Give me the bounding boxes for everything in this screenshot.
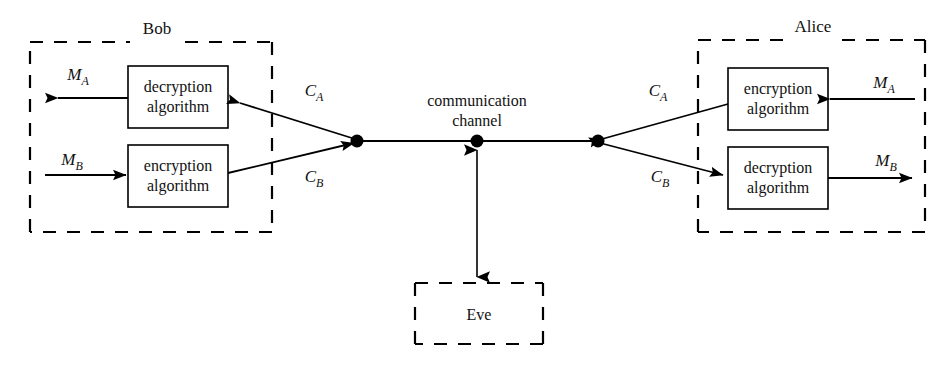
alice-group: Alice encryption algorithm decryption al…: [698, 17, 925, 232]
bob-cipher-in-label: CA: [305, 81, 324, 104]
channel-label-line2: channel: [452, 112, 502, 129]
alice-plaintext-in-sub: A: [886, 82, 895, 96]
alice-cipher-in-label: CB: [651, 167, 670, 190]
alice-plaintext-in-base: M: [872, 73, 888, 92]
alice-encryption-box: [728, 68, 828, 130]
channel-node-left: [351, 135, 364, 148]
bob-decryption-box-line1: decryption: [144, 78, 212, 96]
alice-plaintext-out-label: MB: [874, 151, 897, 174]
communication-channel-group: communication channel: [351, 92, 605, 148]
eve-label: Eve: [467, 306, 492, 323]
bob-label: Bob: [143, 19, 171, 38]
bob-cipher-in-base: C: [305, 81, 317, 100]
bob-channel-links: CA CB: [228, 81, 355, 190]
alice-plaintext-out-base: M: [874, 151, 890, 170]
alice-encryption-box-line2: algorithm: [747, 100, 810, 118]
alice-channel-links: CA CB: [600, 81, 728, 190]
alice-cipher-out-sub: A: [659, 90, 668, 104]
diagram-canvas: Bob decryption algorithm encryption algo…: [0, 0, 951, 368]
bob-encryption-box-line1: encryption: [144, 157, 212, 175]
alice-plaintext-in-label: MA: [872, 73, 895, 96]
alice-decryption-box: [728, 147, 828, 209]
bob-cipher-out-base: C: [305, 167, 317, 186]
bob-cipher-out-sub: B: [316, 176, 324, 190]
bob-cipher-in-arrow: [240, 103, 355, 139]
alice-cipher-in-sub: B: [662, 176, 670, 190]
bob-decryption-box-line2: algorithm: [147, 98, 210, 116]
bob-encryption-box-line2: algorithm: [147, 177, 210, 195]
channel-node-center: [471, 135, 484, 148]
bob-plaintext-out-base: M: [66, 65, 82, 84]
bob-cipher-in-sub: A: [315, 90, 324, 104]
bob-plaintext-in-sub: B: [75, 159, 83, 173]
alice-plaintext-out-sub: B: [889, 160, 897, 174]
alice-decryption-box-line1: decryption: [744, 159, 812, 177]
alice-cipher-out-label: CA: [649, 81, 668, 104]
bob-plaintext-in-base: M: [60, 150, 76, 169]
bob-group: Bob decryption algorithm encryption algo…: [30, 19, 272, 232]
bob-plaintext-out-sub: A: [80, 74, 89, 88]
bob-plaintext-in-label: MB: [60, 150, 83, 173]
alice-cipher-out-base: C: [649, 81, 661, 100]
channel-label-line1: communication: [427, 92, 527, 109]
bob-encryption-box: [128, 145, 228, 207]
bob-cipher-out-arrow: [228, 143, 354, 173]
alice-cipher-in-base: C: [651, 167, 663, 186]
cryptography-diagram: Bob decryption algorithm encryption algo…: [0, 0, 951, 368]
alice-encryption-box-line1: encryption: [744, 80, 812, 98]
bob-cipher-out-label: CB: [305, 167, 324, 190]
alice-cipher-out-arrow: [602, 104, 728, 139]
bob-plaintext-out-label: MA: [66, 65, 89, 88]
bob-decryption-box: [128, 66, 228, 128]
alice-decryption-box-line2: algorithm: [747, 179, 810, 197]
channel-node-right: [592, 135, 605, 148]
eve-group: Eve: [415, 150, 543, 344]
alice-label: Alice: [795, 17, 832, 36]
